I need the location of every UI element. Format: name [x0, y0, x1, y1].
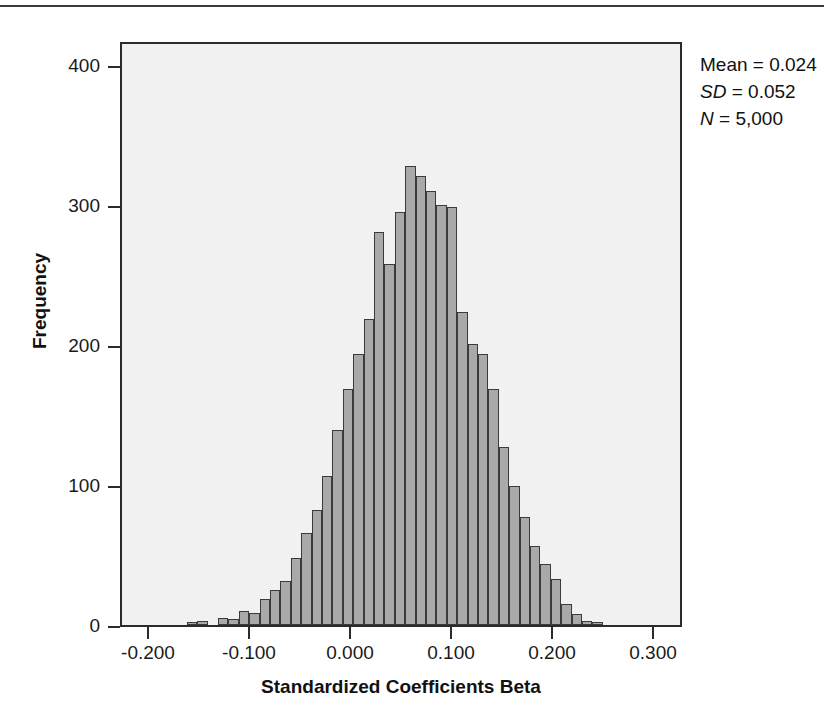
histogram-bar — [343, 389, 353, 625]
histogram-bar — [478, 354, 488, 625]
stat-mean-equals: = — [753, 54, 764, 75]
histogram-bar — [447, 207, 457, 625]
histogram-bar — [561, 604, 571, 625]
x-axis-title: Standardized Coefficients Beta — [120, 676, 682, 698]
y-axis-label-0: 0 — [14, 615, 100, 637]
histogram-bar — [426, 191, 436, 625]
stat-sd-equals: = — [732, 81, 743, 102]
x-axis-label-0.300: 0.300 — [593, 642, 713, 664]
histogram-bar — [260, 599, 270, 625]
y-axis-label-400: 400 — [14, 55, 100, 77]
y-axis-tick-300 — [108, 206, 120, 208]
y-axis-tick-100 — [108, 486, 120, 488]
stat-mean: Mean = 0.024 — [700, 52, 817, 79]
x-axis-tick--0.200 — [147, 627, 149, 639]
y-axis-label-300: 300 — [14, 195, 100, 217]
histogram-bars — [122, 44, 680, 625]
x-axis-tick-0.100 — [450, 627, 452, 639]
histogram-bar — [582, 621, 592, 625]
y-axis-title: Frequency — [29, 201, 51, 401]
histogram-bar — [239, 611, 249, 625]
histogram-bar — [488, 389, 498, 625]
page-top-rule — [0, 5, 824, 7]
histogram-bar — [187, 622, 197, 625]
histogram-bar — [364, 319, 374, 625]
x-axis-tick-0.300 — [652, 627, 654, 639]
histogram-bar — [384, 264, 394, 625]
histogram-bar — [312, 510, 322, 625]
histogram-bar — [520, 517, 530, 625]
stat-n: N = 5,000 — [700, 106, 817, 133]
stat-mean-label: Mean — [700, 54, 748, 75]
histogram-bar — [249, 613, 259, 626]
histogram-bar — [499, 447, 509, 625]
histogram-bar — [509, 486, 519, 625]
y-axis-tick-0 — [108, 626, 120, 628]
histogram-figure: 400 300 200 100 0 Frequency -0.200 -0.10… — [0, 0, 824, 727]
x-axis-tick-0.200 — [551, 627, 553, 639]
stat-sd-value: 0.052 — [748, 81, 796, 102]
histogram-bar — [540, 564, 550, 625]
plot-area — [120, 42, 682, 627]
histogram-bar — [270, 590, 280, 625]
histogram-bar — [291, 558, 301, 625]
stat-n-label: N — [700, 108, 714, 129]
histogram-bar — [218, 618, 228, 625]
statistics-annotation: Mean = 0.024 SD = 0.052 N = 5,000 — [700, 52, 817, 133]
stat-n-equals: = — [719, 108, 730, 129]
histogram-bar — [468, 344, 478, 625]
histogram-bar — [395, 212, 405, 625]
histogram-bar — [572, 614, 582, 625]
y-axis-tick-400 — [108, 66, 120, 68]
x-axis-tick-0.000 — [349, 627, 351, 639]
x-axis-tick--0.100 — [248, 627, 250, 639]
y-axis-label-200: 200 — [14, 335, 100, 357]
histogram-bar — [301, 533, 311, 625]
histogram-bar — [551, 579, 561, 625]
histogram-bar — [457, 312, 467, 625]
histogram-bar — [353, 354, 363, 625]
y-axis-label-100: 100 — [14, 475, 100, 497]
histogram-bar — [416, 176, 426, 625]
histogram-bar — [228, 619, 238, 625]
stat-mean-value: 0.024 — [769, 54, 817, 75]
histogram-bar — [374, 232, 384, 625]
histogram-bar — [405, 166, 415, 625]
stat-n-value: 5,000 — [735, 108, 783, 129]
histogram-bar — [280, 581, 290, 625]
histogram-bar — [197, 621, 207, 625]
histogram-bar — [322, 476, 332, 625]
stat-sd-label: SD — [700, 81, 726, 102]
histogram-bar — [592, 622, 602, 625]
stat-sd: SD = 0.052 — [700, 79, 817, 106]
histogram-bar — [332, 430, 342, 625]
histogram-bar — [436, 205, 446, 625]
histogram-bar — [530, 546, 540, 625]
y-axis-tick-200 — [108, 346, 120, 348]
